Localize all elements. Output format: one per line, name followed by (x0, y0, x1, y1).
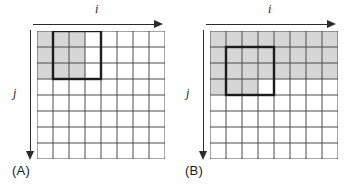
shaded-cell (210, 47, 226, 63)
shaded-cell (210, 31, 226, 47)
arrow-shaft (203, 30, 204, 152)
shaded-cell (242, 31, 258, 47)
arrow-head-icon (26, 151, 34, 160)
shaded-cells-a (37, 31, 85, 79)
arrow-head-icon (154, 20, 163, 28)
shaded-cell (37, 63, 53, 79)
shaded-cell (274, 47, 290, 63)
shaded-cell (274, 63, 290, 79)
shaded-cell (258, 47, 274, 63)
shaded-cell (306, 47, 322, 63)
arrow-head-icon (199, 151, 207, 160)
shaded-cell (210, 63, 226, 79)
horizontal-axis-arrow-a (33, 20, 163, 29)
arrow-shaft (30, 30, 31, 152)
shaded-cell (258, 63, 274, 79)
grid-svg-a (37, 31, 165, 159)
shaded-cell (226, 79, 242, 95)
panel-caption-b: (B) (185, 163, 203, 178)
shaded-cell (322, 31, 338, 47)
horizontal-axis-arrow-b (206, 20, 336, 29)
shaded-cell (242, 47, 258, 63)
shaded-cell (322, 63, 338, 79)
arrow-head-icon (327, 20, 336, 28)
shaded-cell (290, 31, 306, 47)
shaded-cell (242, 79, 258, 95)
grid-b (210, 31, 338, 159)
arrow-shaft (33, 24, 155, 25)
panel-caption-a: (A) (12, 163, 30, 178)
arrow-shaft (206, 24, 328, 25)
shaded-cell (290, 47, 306, 63)
shaded-cell (210, 79, 226, 95)
shaded-cell (274, 31, 290, 47)
shaded-cell (226, 31, 242, 47)
grid-a (37, 31, 165, 159)
axis-label-i-a: i (95, 2, 98, 17)
shaded-cell (322, 47, 338, 63)
axis-label-j-a: j (13, 86, 16, 101)
shaded-cell (306, 63, 322, 79)
shaded-cell (226, 63, 242, 79)
vertical-axis-arrow-b (199, 30, 208, 160)
shaded-cell (53, 63, 69, 79)
panel-b: i j (B) (173, 0, 345, 193)
shaded-cell (306, 31, 322, 47)
shaded-cell (69, 47, 85, 63)
shaded-cell (69, 31, 85, 47)
shaded-cell (290, 63, 306, 79)
shaded-cell (53, 31, 69, 47)
shaded-cell (69, 63, 85, 79)
shaded-cell (242, 63, 258, 79)
figure-container: i j (A) i j (0, 0, 345, 193)
axis-label-i-b: i (268, 2, 271, 17)
panel-a: i j (A) (0, 0, 172, 193)
shaded-cell (226, 47, 242, 63)
vertical-axis-arrow-a (26, 30, 35, 160)
shaded-cell (53, 47, 69, 63)
shaded-cell (258, 31, 274, 47)
grid-svg-b (210, 31, 338, 159)
shaded-cell (37, 31, 53, 47)
axis-label-j-b: j (186, 86, 189, 101)
shaded-cell (37, 47, 53, 63)
